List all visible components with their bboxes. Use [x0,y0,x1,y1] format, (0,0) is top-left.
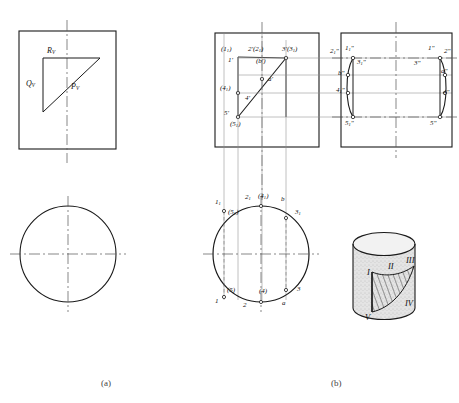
label-Qv: QV [26,80,35,88]
label-top-5sub1: (51) [228,209,238,216]
label-side-5sub1: 51" [345,120,354,127]
label-roman-V: V [365,313,370,322]
label-top-2: 2 [243,302,247,309]
label-side-3pp: 3" [414,60,420,67]
label-Pv: PV [71,83,79,91]
label-side-3sub1: 31" [357,59,366,66]
label-front-5sub1: (51) [230,121,240,128]
caption-b: (b) [331,378,342,388]
label-roman-II: II [388,262,394,271]
label-top-b: b [281,196,285,203]
label-top-3sub1: 31 [295,209,301,216]
drawing-sheet: RV QV PV (11) 2'(21) 3'(31) 1' (b') a' (… [0,0,459,403]
label-side-2sub1: 21" [330,48,339,55]
label-top-5: (5) [227,287,235,294]
label-top-a: a [282,300,286,307]
label-front-5prime: 5' [224,110,229,117]
label-roman-I: I [367,268,370,277]
label-side-2pp: 2" [444,48,450,55]
label-front-bprime: (b') [256,58,266,65]
label-top-4sub1: (41) [258,193,268,200]
side-view-group [332,22,458,158]
label-top-2sub1: 21 [245,194,251,201]
label-top-1: 1 [215,298,219,305]
label-Rv: RV [47,47,55,55]
label-side-4sub1: 41" [336,87,345,94]
label-top-4: (4) [259,288,267,295]
label-front-1sub1: (11) [221,46,231,53]
label-roman-IV: IV [405,299,413,308]
label-side-4pp: 4" [443,89,449,96]
label-front-1prime: 1' [228,57,233,64]
panel-a-group [10,20,126,312]
label-roman-III: III [406,256,415,265]
label-front-3prime: 3'(31) [282,46,297,53]
label-side-app: a" [441,68,447,75]
caption-a: (a) [101,378,111,388]
label-top-1sub1: 11 [215,199,221,206]
label-side-bpp: b" [338,70,344,77]
label-front-4sub1: (41) [220,85,230,92]
label-side-1sub1: 11" [345,45,354,52]
label-side-1pp: 1" [428,45,434,52]
label-top-3: 3 [297,286,301,293]
label-side-5pp: 5" [430,120,436,127]
label-front-aprime: a' [268,76,273,83]
label-front-4prime: 4' [245,95,250,102]
label-front-2prime: 2'(21) [248,46,263,53]
